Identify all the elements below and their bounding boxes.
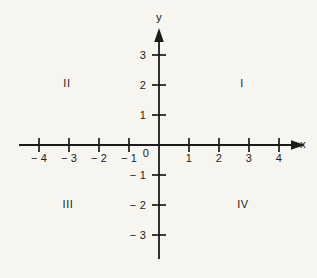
y-tick-label-2: 2 <box>106 80 146 91</box>
quadrant-label-i: I <box>226 78 258 89</box>
quadrant-label-iv: IV <box>227 199 259 210</box>
x-tick-label-3: 3 <box>234 153 264 164</box>
x-tick-label-minus-1: − 1 <box>109 153 149 164</box>
quadrant-label-ii: II <box>51 78 83 89</box>
x-axis-label: x <box>300 139 314 151</box>
y-tick-label-minus-1: − 1 <box>106 170 146 181</box>
coordinate-plane-figure: y x 0 − 4 − 3 − 2 − 1 1 2 3 4 3 2 1 − 1 … <box>0 0 317 278</box>
y-tick-label-3: 3 <box>106 50 146 61</box>
x-tick-label-2: 2 <box>204 153 234 164</box>
quadrant-label-iii: III <box>52 199 84 210</box>
y-tick-label-minus-3: − 3 <box>106 230 146 241</box>
x-tick-label-1: 1 <box>174 153 204 164</box>
y-axis-arrowhead <box>154 28 164 42</box>
y-tick-label-minus-2: − 2 <box>106 200 146 211</box>
y-tick-label-1: 1 <box>106 110 146 121</box>
x-tick-label-4: 4 <box>264 153 294 164</box>
y-axis-label: y <box>152 12 166 24</box>
axes-svg <box>0 0 317 278</box>
